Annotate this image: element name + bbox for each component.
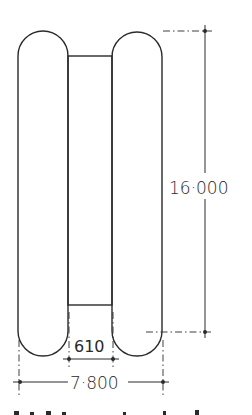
width-dim-tick-left — [18, 380, 22, 384]
right-capsule — [112, 32, 162, 356]
technical-drawing: 16·000 610 7·800 — [0, 0, 252, 415]
gap-dimension-label: 610 — [74, 337, 105, 356]
left-capsule — [18, 31, 68, 356]
cropped-caption-fragment — [14, 410, 199, 415]
gap-dim-tick-right — [111, 357, 115, 361]
gap-dim-tick-left — [67, 357, 71, 361]
height-dimension-label: 16·000 — [169, 178, 228, 198]
width-dimension-label: 7·800 — [70, 373, 119, 393]
height-dim-tick-top — [203, 29, 207, 33]
center-connector — [68, 56, 112, 305]
height-dim-tick-bottom — [203, 330, 207, 334]
width-dim-tick-right — [161, 380, 165, 384]
